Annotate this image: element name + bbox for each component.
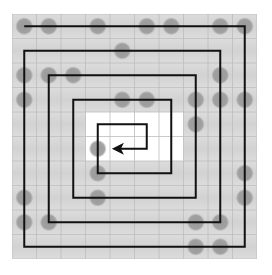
grid-canvas <box>12 14 257 259</box>
spiral-grid-diagram <box>12 14 257 259</box>
